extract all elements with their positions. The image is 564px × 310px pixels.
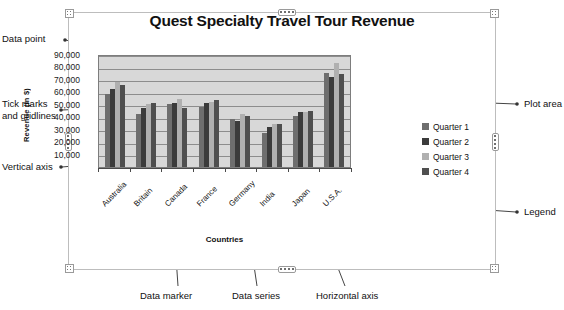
bar-group[interactable] xyxy=(162,56,193,167)
bar-data-marker[interactable] xyxy=(120,85,125,167)
screenshot-root: Quest Specialty Travel Tour Revenue Reve… xyxy=(0,0,564,310)
legend-item[interactable]: Quarter 1 xyxy=(422,119,490,134)
y-axis-tick-label: 90,000 xyxy=(54,50,80,60)
x-axis-category-label: U.S.A. xyxy=(321,186,344,209)
bar-group[interactable] xyxy=(287,56,318,167)
y-axis-tick-label: 30,000 xyxy=(54,125,80,135)
x-axis-category-label: Canada xyxy=(163,182,189,208)
bar-data-marker[interactable] xyxy=(245,116,250,167)
bar-data-marker[interactable] xyxy=(214,100,219,167)
annotation-legend: Legend xyxy=(524,206,556,218)
chart-title[interactable]: Quest Specialty Travel Tour Revenue xyxy=(0,12,564,30)
x-axis-category-label: Germany xyxy=(227,179,257,209)
x-axis-category-label: France xyxy=(195,184,219,208)
bar-data-marker[interactable] xyxy=(308,111,313,168)
y-axis-tick-label: 50,000 xyxy=(54,100,80,110)
legend-item[interactable]: Quarter 4 xyxy=(422,164,490,179)
y-axis-tick-label: 10,000 xyxy=(54,150,80,160)
legend-item[interactable]: Quarter 2 xyxy=(422,134,490,149)
plot-area[interactable] xyxy=(98,55,351,168)
x-axis-category-label: India xyxy=(258,190,277,209)
bar-group[interactable] xyxy=(193,56,224,167)
bar-data-marker[interactable] xyxy=(339,74,344,167)
bar-data-marker[interactable] xyxy=(182,108,187,167)
x-axis-category-label: Australia xyxy=(100,180,128,208)
chart-legend[interactable]: Quarter 1Quarter 2Quarter 3Quarter 4 xyxy=(422,119,490,179)
resize-handle-right-center[interactable] xyxy=(492,133,499,151)
legend-item-label: Quarter 2 xyxy=(433,137,469,147)
data-series-bars[interactable] xyxy=(99,56,350,167)
x-axis-category-labels: AustraliaBritainCanadaFranceGermanyIndia… xyxy=(92,172,362,222)
annotation-data-series: Data series xyxy=(232,290,280,302)
legend-item-label: Quarter 1 xyxy=(433,122,469,132)
y-axis-tick-label: 80,000 xyxy=(54,62,80,72)
y-axis-tick-label: 40,000 xyxy=(54,112,80,122)
y-axis-tick-label: 20,000 xyxy=(54,137,80,147)
x-axis-category-label: Japan xyxy=(290,187,312,209)
legend-swatch-icon xyxy=(422,153,429,160)
bar-data-marker[interactable] xyxy=(151,103,156,167)
y-axis-tick-label: 70,000 xyxy=(54,75,80,85)
legend-item-label: Quarter 4 xyxy=(433,167,469,177)
resize-handle-bottom-center[interactable] xyxy=(278,266,296,273)
y-axis-tick-label: 60,000 xyxy=(54,87,80,97)
annotation-data-marker: Data marker xyxy=(140,290,192,302)
legend-swatch-icon xyxy=(422,168,429,175)
bar-group[interactable] xyxy=(319,56,350,167)
bar-group[interactable] xyxy=(99,56,130,167)
annotation-vertical-axis: Vertical axis xyxy=(2,161,53,173)
legend-swatch-icon xyxy=(422,123,429,130)
legend-swatch-icon xyxy=(422,138,429,145)
annotation-tick-marks: Tick marks and gridlines xyxy=(2,98,56,121)
bar-data-marker[interactable] xyxy=(277,124,282,167)
x-axis-category-label: Britain xyxy=(132,186,154,208)
annotation-horizontal-axis: Horizontal axis xyxy=(316,290,378,302)
annotation-plot-area: Plot area xyxy=(524,98,562,110)
resize-handle-bottom-left[interactable] xyxy=(65,264,74,273)
bar-group[interactable] xyxy=(130,56,161,167)
x-axis-title[interactable]: Countries xyxy=(98,235,351,244)
legend-item[interactable]: Quarter 3 xyxy=(422,149,490,164)
bar-group[interactable] xyxy=(225,56,256,167)
resize-handle-bottom-right[interactable] xyxy=(490,264,499,273)
legend-item-label: Quarter 3 xyxy=(433,152,469,162)
bar-group[interactable] xyxy=(256,56,287,167)
annotation-data-point: Data point xyxy=(2,33,45,45)
